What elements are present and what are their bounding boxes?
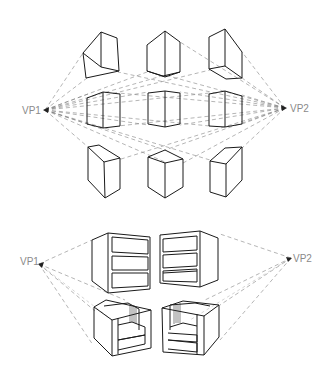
box-middle-left xyxy=(87,92,120,128)
box-below-left xyxy=(88,145,120,198)
bottom-vp2-label: VP2 xyxy=(293,253,312,264)
top-vp2-label: VP2 xyxy=(290,103,309,114)
top-vp1-label: VP1 xyxy=(22,105,41,116)
box-below-right xyxy=(210,147,242,197)
bottom-vp1-label: VP1 xyxy=(20,256,39,267)
backrest-hatching xyxy=(174,303,180,324)
box-below-center xyxy=(148,150,183,198)
box-above-center xyxy=(147,31,180,77)
perspective-diagram: VP1 VP2 VP1 VP2 xyxy=(0,0,328,372)
armchair-right xyxy=(162,301,219,355)
cabinet-left xyxy=(92,233,150,293)
cabinet-right xyxy=(160,231,218,287)
box-above-right xyxy=(209,29,242,79)
armchair-left xyxy=(94,300,151,356)
bottom-guide-lines xyxy=(39,234,291,345)
bottom-vp2-marker xyxy=(286,257,292,262)
top-vp2-marker xyxy=(281,105,287,111)
box-above-left xyxy=(83,32,119,78)
box-middle-right xyxy=(209,91,242,127)
